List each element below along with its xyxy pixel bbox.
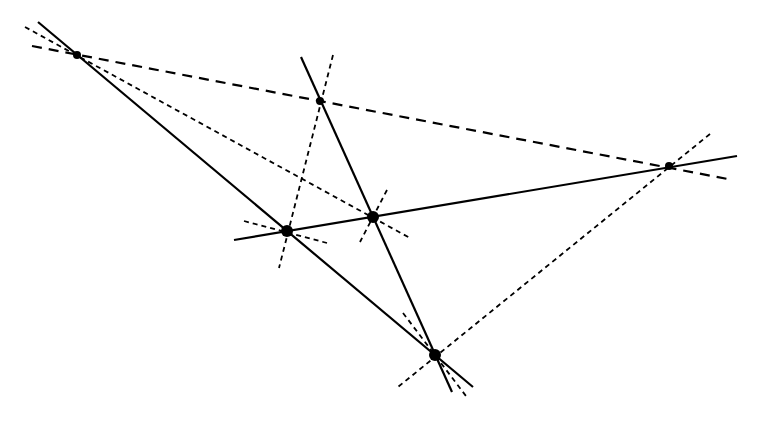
point-P3	[665, 162, 673, 170]
long-dashed-line-d1	[32, 46, 733, 180]
solid-line-s1	[38, 22, 473, 387]
short-dashed-line-q3	[398, 134, 710, 387]
points	[73, 51, 673, 361]
solid-line-s3	[234, 156, 737, 240]
point-P1	[73, 51, 81, 59]
solid-lines	[38, 22, 737, 392]
point-P5	[367, 211, 379, 223]
point-P4	[281, 225, 293, 237]
long-dashed-lines	[32, 46, 733, 180]
point-P6	[429, 349, 441, 361]
short-dashed-lines	[25, 27, 710, 396]
geometry-diagram	[0, 0, 763, 422]
short-dashed-line-q1	[25, 27, 410, 238]
point-P2	[316, 97, 324, 105]
